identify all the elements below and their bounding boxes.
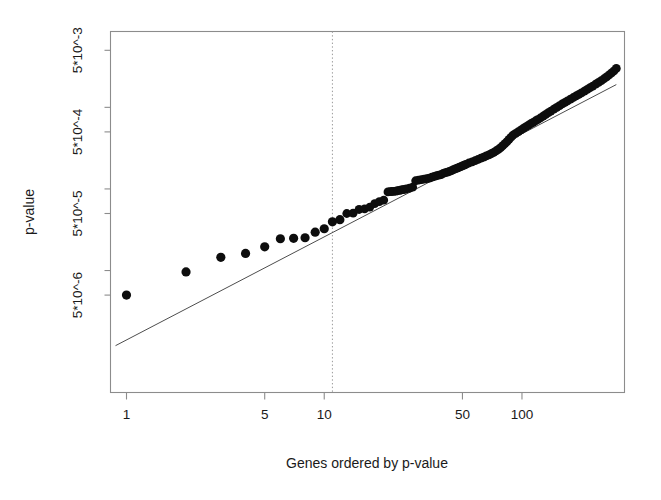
data-point — [612, 64, 621, 73]
data-point — [311, 228, 320, 237]
y-tick-label: 5*10^-4 — [71, 108, 86, 155]
data-point — [122, 290, 131, 299]
plot-canvas: 5*10^-65*10^-55*10^-45*10^-3 151050100 G… — [0, 0, 661, 500]
y-tick-label: 5*10^-6 — [71, 272, 86, 318]
y-tick-label: 5*10^-3 — [71, 27, 86, 73]
data-point — [335, 215, 344, 224]
x-tick-label: 50 — [455, 407, 470, 422]
y-axis-title: p-value — [21, 189, 37, 235]
x-tick-label: 5 — [261, 407, 269, 422]
x-tick-label: 1 — [123, 407, 131, 422]
data-point — [289, 234, 298, 243]
data-point — [400, 185, 409, 194]
data-point — [260, 242, 269, 251]
qq-plot-figure: 5*10^-65*10^-55*10^-45*10^-3 151050100 G… — [0, 0, 661, 500]
y-axis-ticks — [105, 50, 111, 295]
x-axis-tick-labels: 151050100 — [123, 407, 533, 422]
data-point — [379, 196, 388, 205]
data-point — [460, 161, 469, 170]
data-point — [320, 224, 329, 233]
y-tick-label: 5*10^-5 — [71, 190, 86, 236]
x-axis-ticks — [127, 393, 522, 400]
data-point — [276, 234, 285, 243]
x-tick-label: 100 — [511, 407, 534, 422]
x-tick-label: 10 — [317, 407, 332, 422]
data-point — [241, 249, 250, 258]
data-point — [300, 233, 309, 242]
data-series-observed-p-values — [122, 64, 621, 300]
data-point — [216, 253, 225, 262]
y-axis-tick-labels: 5*10^-65*10^-55*10^-45*10^-3 — [71, 27, 86, 318]
expected-null-reference-line — [116, 85, 617, 346]
x-axis-title: Genes ordered by p-value — [286, 455, 448, 471]
data-point — [181, 267, 190, 276]
